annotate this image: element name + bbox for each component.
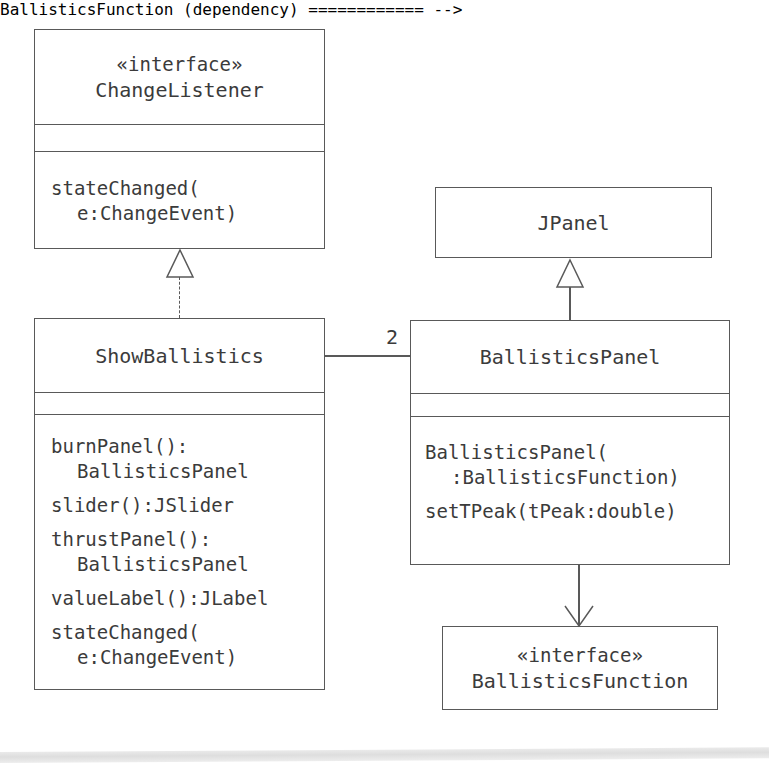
method-item: thrustPanel():BallisticsPanel <box>51 527 318 577</box>
method-line-2: e:ChangeEvent) <box>51 201 318 226</box>
ballisticsfunction-stereotype: «interface» <box>443 642 717 668</box>
showballistics-attributes-compartment <box>35 392 324 414</box>
method-line-1: burnPanel(): <box>51 435 188 457</box>
method-line-1: slider():JSlider <box>51 494 234 516</box>
association-multiplicity-label: 2 <box>386 326 398 348</box>
method-line-1: valueLabel():JLabel <box>51 587 268 609</box>
jpanel-class-name: JPanel <box>436 210 711 236</box>
changelistener-class-name: ChangeListener <box>35 77 324 103</box>
class-box-changelistener[interactable]: «interface» ChangeListener stateChanged(… <box>34 29 325 249</box>
method-line-2: :BallisticsFunction) <box>425 465 723 490</box>
method-line-1: setTPeak(tPeak:double) <box>425 500 677 522</box>
jpanel-header-compartment: JPanel <box>436 188 711 257</box>
method-item: BallisticsPanel(:BallisticsFunction) <box>425 440 723 490</box>
class-box-ballisticspanel[interactable]: BallisticsPanel BallisticsPanel(:Ballist… <box>410 320 730 565</box>
ballisticsfunction-header-compartment: «interface» BallisticsFunction <box>443 627 717 709</box>
association-line-showballistics-ballisticspanel <box>325 355 411 357</box>
method-item: setTPeak(tPeak:double) <box>425 499 723 524</box>
showballistics-methods-compartment: burnPanel():BallisticsPanel slider():JSl… <box>35 414 324 689</box>
ballisticspanel-attributes-compartment <box>411 393 729 416</box>
method-line-2: e:ChangeEvent) <box>51 645 318 670</box>
method-line-2: BallisticsPanel <box>51 552 318 577</box>
changelistener-attributes-compartment <box>35 124 324 151</box>
changelistener-methods-compartment: stateChanged(e:ChangeEvent) <box>35 151 324 247</box>
class-box-jpanel[interactable]: JPanel <box>435 187 712 258</box>
generalization-line-ballisticspanel-jpanel <box>569 287 571 320</box>
method-item: slider():JSlider <box>51 493 318 518</box>
method-item: burnPanel():BallisticsPanel <box>51 434 318 484</box>
method-item: valueLabel():JLabel <box>51 586 318 611</box>
method-line-1: stateChanged( <box>51 621 200 643</box>
class-box-ballisticsfunction[interactable]: «interface» BallisticsFunction <box>442 626 718 710</box>
method-item: stateChanged(e:ChangeEvent) <box>51 176 318 226</box>
showballistics-header-compartment: ShowBallistics <box>35 319 324 392</box>
changelistener-header-compartment: «interface» ChangeListener <box>35 30 324 124</box>
realization-line-showballistics-changelistener <box>179 277 180 318</box>
changelistener-stereotype: «interface» <box>35 51 324 77</box>
open-arrowhead-icon <box>559 604 599 630</box>
hollow-triangle-arrowhead-icon <box>550 258 590 290</box>
showballistics-class-name: ShowBallistics <box>35 343 324 369</box>
page-edge-artifact <box>0 747 769 763</box>
class-box-showballistics[interactable]: ShowBallistics burnPanel():BallisticsPan… <box>34 318 325 690</box>
method-line-1: BallisticsPanel( <box>425 441 608 463</box>
ballisticsfunction-class-name: BallisticsFunction <box>443 668 717 694</box>
method-line-1: thrustPanel(): <box>51 528 211 550</box>
method-line-2: BallisticsPanel <box>51 459 318 484</box>
hollow-triangle-arrowhead-icon <box>160 248 200 280</box>
ballisticspanel-methods-compartment: BallisticsPanel(:BallisticsFunction) set… <box>411 416 729 564</box>
ballisticspanel-header-compartment: BallisticsPanel <box>411 321 729 393</box>
method-item: stateChanged(e:ChangeEvent) <box>51 620 318 670</box>
method-line-1: stateChanged( <box>51 177 200 199</box>
ballisticspanel-class-name: BallisticsPanel <box>411 344 729 370</box>
uml-class-diagram-canvas: «interface» ChangeListener stateChanged(… <box>0 0 769 774</box>
